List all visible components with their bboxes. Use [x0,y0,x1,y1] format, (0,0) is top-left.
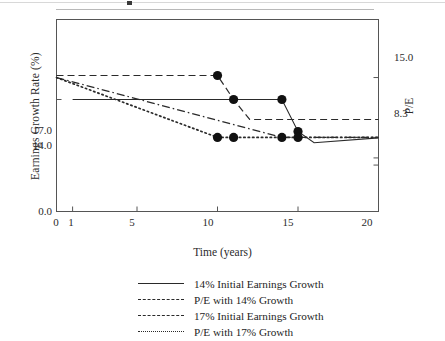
legend-label-3: P/E with 17% Growth [194,326,293,338]
series-line-1 [57,78,379,138]
legend-label-1: P/E with 14% Growth [194,294,293,306]
data-point-marker-2-0 [213,71,222,80]
axes-frame [57,20,379,212]
data-point-marker-0-1 [277,95,286,104]
legend-item-2: 17% Initial Earnings Growth [138,308,398,324]
legend-item-1: P/E with 14% Growth [138,292,398,308]
series-line-3 [57,78,379,138]
chart-figure: Earnings Growth Rate (%) P/E Time (years… [0,0,445,341]
legend-label-2: 17% Initial Earnings Growth [194,310,324,322]
data-series-layer [57,76,379,143]
series-line-2 [57,76,379,120]
legend-item-3: P/E with 17% Growth [138,324,398,340]
legend-swatch-solid-icon [138,278,184,290]
legend-swatch-dashed-icon [138,310,184,322]
data-point-marker-3-3 [293,133,302,142]
legend-swatch-dashdot-icon [138,294,184,306]
data-point-marker-3-2 [277,133,286,142]
legend-label-0: 14% Initial Earnings Growth [194,278,324,290]
data-point-marker-0-0 [229,95,238,104]
chart-legend: 14% Initial Earnings Growth P/E with 14%… [138,276,398,340]
legend-item-0: 14% Initial Earnings Growth [138,276,398,292]
data-point-marker-3-1 [229,133,238,142]
data-point-marker-3-0 [213,133,222,142]
series-line-0 [73,100,379,143]
legend-swatch-dotted-icon [138,326,184,338]
axis-ticks [57,76,379,212]
